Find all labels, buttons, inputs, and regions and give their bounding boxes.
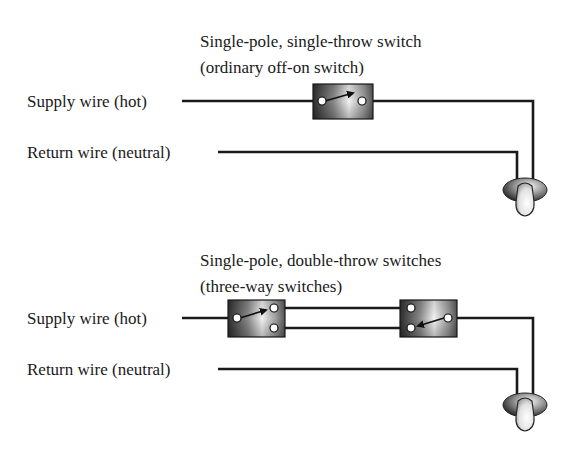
bottom-caption-line2: (three-way switches) <box>200 278 342 295</box>
top-return-label: Return wire (neutral) <box>27 144 171 161</box>
bottom-light-bulb-icon <box>503 393 547 431</box>
bottom-caption-line1: Single-pole, double-throw switches <box>200 252 441 269</box>
spdt-switch-1-icon <box>228 300 285 337</box>
switch-wiring-diagram: Single-pole, single-throw switch (ordina… <box>0 0 568 458</box>
bottom-circuit <box>182 300 547 431</box>
top-caption-line1: Single-pole, single-throw switch <box>200 33 421 50</box>
top-caption-line2: (ordinary off-on switch) <box>200 59 364 76</box>
top-supply-label: Supply wire (hot) <box>27 93 147 110</box>
top-light-bulb-icon <box>503 178 547 216</box>
bottom-switched-wire <box>457 318 533 405</box>
spdt-switch-2-icon <box>400 300 457 337</box>
spst-switch-icon <box>313 84 373 119</box>
top-return-wire <box>218 152 517 190</box>
bottom-return-label: Return wire (neutral) <box>27 361 171 378</box>
top-circuit <box>182 84 547 216</box>
bottom-supply-label: Supply wire (hot) <box>27 310 147 327</box>
bottom-return-wire <box>218 369 517 405</box>
